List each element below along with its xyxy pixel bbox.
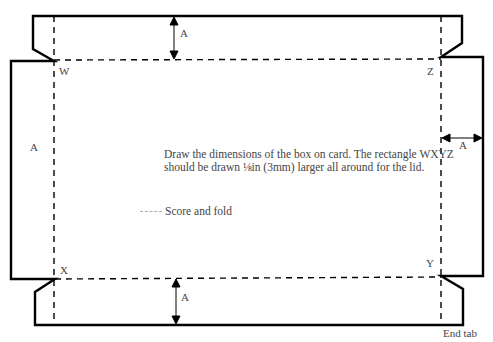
end-tab-label: End tab	[443, 328, 477, 339]
legend: Score and fold	[140, 205, 232, 217]
corner-label-y: Y	[426, 258, 434, 269]
dimension-label-top: A	[180, 28, 188, 39]
corner-label-x: X	[60, 265, 68, 276]
dashed-line-swatch	[140, 211, 162, 212]
dimension-label-left: A	[30, 142, 38, 153]
corner-label-w: W	[59, 66, 69, 77]
instruction-text: Draw the dimensions of the box on card. …	[164, 148, 464, 173]
dimension-label-bottom: A	[181, 292, 189, 303]
corner-label-z: Z	[427, 66, 434, 77]
legend-label: Score and fold	[165, 205, 232, 217]
